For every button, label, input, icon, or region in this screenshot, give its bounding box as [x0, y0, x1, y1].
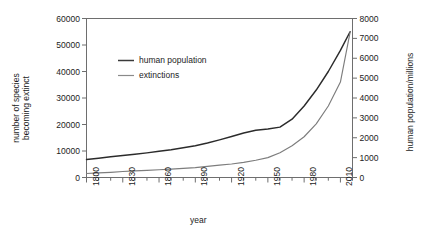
x-tick-label: 2010 [344, 167, 354, 186]
y-tick-label-left: 20000 [28, 120, 80, 130]
y-tick-label-right: 1000 [360, 153, 379, 163]
y-tick-label-left: 30000 [28, 93, 80, 103]
y-tick-label-right: 2000 [360, 133, 379, 143]
plot-frame [87, 19, 353, 178]
plot-frame-rect [87, 19, 353, 178]
legend-label-extinctions: extinctions [139, 70, 179, 80]
chart-figure: number of species becoming extinct human… [0, 0, 422, 235]
series-line-extinctions [87, 32, 351, 160]
x-tick-label: 1950 [272, 167, 282, 186]
y-tick-label-left: 40000 [28, 67, 80, 77]
x-tick-label: 1860 [163, 167, 173, 186]
x-tick-label: 1980 [308, 167, 318, 186]
y-tick-label-right: 5000 [360, 73, 379, 83]
legend-swatches [118, 61, 134, 76]
y-tick-label-left: 0 [28, 173, 80, 183]
y-tick-label-left: 50000 [28, 40, 80, 50]
y-tick-label-right: 7000 [360, 33, 379, 43]
legend-label-human-population: human population [139, 55, 207, 65]
y-tick-label-left: 10000 [28, 146, 80, 156]
y-tick-label-left: 60000 [28, 14, 80, 24]
axis-ticks [82, 19, 357, 183]
x-tick-label: 1890 [199, 167, 209, 186]
x-tick-label: 1920 [236, 167, 246, 186]
data-series [87, 32, 351, 174]
y-tick-label-right: 8000 [360, 14, 379, 24]
y-tick-label-right: 6000 [360, 53, 379, 63]
y-tick-label-right: 3000 [360, 113, 379, 123]
x-tick-label: 1830 [127, 167, 137, 186]
series-line-human-population [87, 32, 351, 173]
y-tick-label-right: 4000 [360, 93, 379, 103]
y-tick-label-right: 0 [360, 173, 365, 183]
x-tick-label: 1800 [91, 167, 101, 186]
